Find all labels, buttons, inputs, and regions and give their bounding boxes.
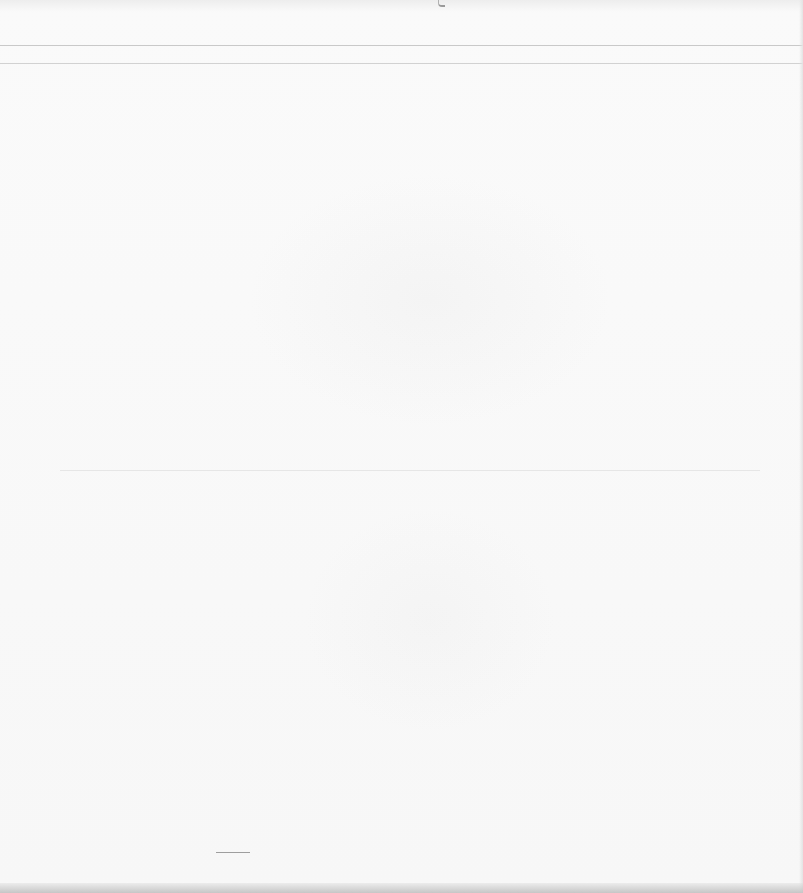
- header-rule-line: [0, 45, 803, 46]
- top-center-mark: [438, 0, 445, 7]
- scan-top-edge: [0, 0, 803, 12]
- scan-bottom-edge: [0, 883, 803, 893]
- scan-right-edge: [799, 0, 803, 893]
- footer-dash-mark: [216, 852, 250, 853]
- faint-mid-rule-line: [60, 470, 760, 471]
- header-rule-line-2: [0, 63, 803, 64]
- scanned-page: [0, 0, 803, 893]
